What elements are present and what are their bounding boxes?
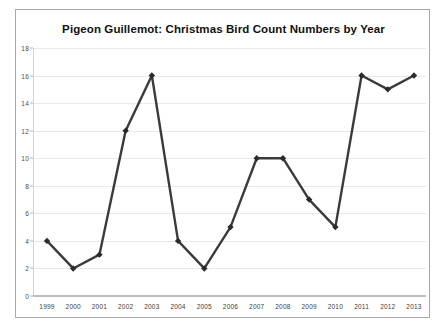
x-tick-label-2012: 2012 bbox=[380, 303, 395, 310]
y-tick-label-8: 8 bbox=[25, 182, 29, 189]
y-tick-label-16: 16 bbox=[21, 72, 29, 79]
y-tick-label-10: 10 bbox=[21, 155, 29, 162]
y-tick-label-12: 12 bbox=[21, 127, 29, 134]
chart-screenshot: Pigeon Guillemot: Christmas Bird Count N… bbox=[0, 0, 445, 328]
y-tick-label-4: 4 bbox=[25, 237, 29, 244]
x-tick-label-2011: 2011 bbox=[354, 303, 369, 310]
x-tick-label-2002: 2002 bbox=[118, 303, 133, 310]
y-tick-label-6: 6 bbox=[25, 210, 29, 217]
series-markers bbox=[44, 72, 417, 271]
x-tick-label-2004: 2004 bbox=[170, 303, 185, 310]
y-tick-label-14: 14 bbox=[21, 100, 29, 107]
x-tick-label-2005: 2005 bbox=[197, 303, 212, 310]
x-tick-label-2001: 2001 bbox=[92, 303, 107, 310]
x-tick-label-2007: 2007 bbox=[249, 303, 264, 310]
chart-frame: Pigeon Guillemot: Christmas Bird Count N… bbox=[15, 9, 430, 318]
line-series-pigeon-guillemot-count bbox=[33, 48, 426, 296]
gridline-0 bbox=[33, 296, 426, 297]
y-tick-label-18: 18 bbox=[21, 45, 29, 52]
x-tick-label-1999: 1999 bbox=[39, 303, 54, 310]
x-tick-label-2009: 2009 bbox=[302, 303, 317, 310]
x-tick-label-2008: 2008 bbox=[275, 303, 290, 310]
x-tick-label-2000: 2000 bbox=[66, 303, 81, 310]
y-tick-label-2: 2 bbox=[25, 265, 29, 272]
x-tick-label-2013: 2013 bbox=[406, 303, 421, 310]
plot-area: 024681012141618 199920002001200220032004… bbox=[33, 48, 426, 296]
x-tick-label-2010: 2010 bbox=[328, 303, 343, 310]
x-tick-label-2003: 2003 bbox=[144, 303, 159, 310]
x-tick-label-2006: 2006 bbox=[223, 303, 238, 310]
series-line bbox=[47, 76, 414, 269]
chart-title: Pigeon Guillemot: Christmas Bird Count N… bbox=[16, 23, 431, 35]
data-point-2007-10 bbox=[254, 155, 260, 161]
y-tick-label-0: 0 bbox=[25, 293, 29, 300]
